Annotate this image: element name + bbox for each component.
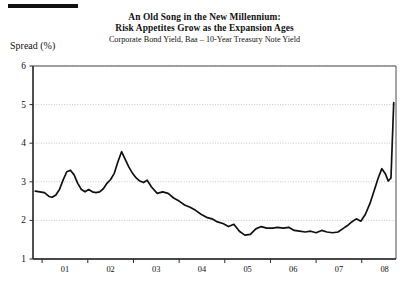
x-axis-tick-label: 01 (61, 265, 69, 274)
x-axis-tick-labels: 1234560102030405060708 (0, 0, 409, 298)
x-axis-tick-label: 08 (380, 265, 388, 274)
y-axis-tick-label: 2 (21, 215, 26, 225)
x-axis-tick-label: 04 (198, 265, 206, 274)
y-axis-tick-label: 3 (21, 177, 26, 187)
x-axis-tick-label: 03 (152, 265, 160, 274)
x-axis-tick-label: 02 (106, 265, 114, 274)
y-axis-tick-label: 6 (21, 61, 26, 71)
y-axis-tick-label: 1 (21, 254, 26, 264)
y-axis-tick-label: 4 (21, 138, 26, 148)
y-axis-tick-label: 5 (21, 100, 26, 110)
x-axis-tick-label: 07 (335, 265, 343, 274)
chart-plot-area: 1234560102030405060708 (0, 0, 409, 298)
x-axis-tick-label: 05 (243, 265, 251, 274)
x-axis-tick-label: 06 (289, 265, 297, 274)
